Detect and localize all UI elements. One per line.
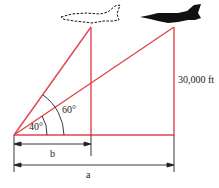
triangle-lines	[14, 27, 174, 135]
arc-60	[43, 95, 64, 135]
angle-40-label: 40°	[29, 121, 43, 132]
sightline-60	[14, 27, 91, 135]
dimension-lines	[14, 135, 174, 172]
jet-dashed-icon	[61, 5, 120, 23]
height-label: 30,000 ft	[178, 74, 214, 85]
sightline-40	[14, 27, 174, 135]
dim-a-label: a	[86, 169, 91, 180]
jet-solid-icon	[140, 4, 201, 23]
dim-b-label: b	[50, 148, 55, 159]
angle-60-label: 60°	[62, 104, 76, 115]
trig-diagram: 30,000 ft 40° 60° b a	[0, 0, 219, 188]
angle-arcs	[42, 95, 64, 135]
